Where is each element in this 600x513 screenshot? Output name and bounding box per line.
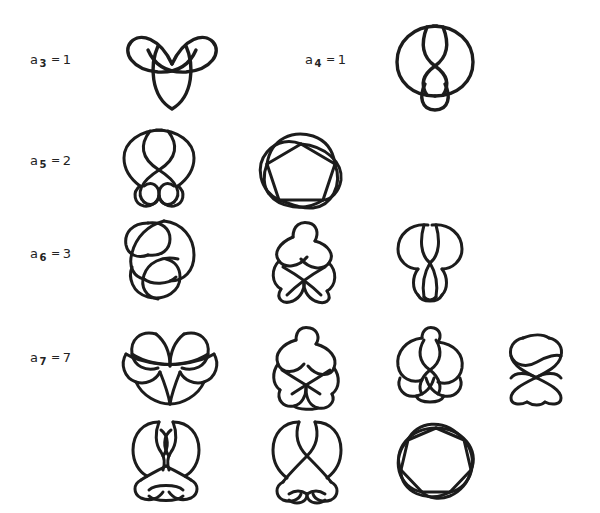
knot-diagram-5-2 [253, 128, 349, 210]
knot-7-4-strands [511, 335, 562, 405]
row-label-a7-value: 7 [63, 350, 72, 365]
row-label-a3: a3=1 [30, 52, 71, 69]
knot-diagram-6-3 [390, 215, 470, 305]
row-label-a4: a4=1 [305, 52, 346, 69]
knot-diagram-7-7 [388, 412, 484, 506]
row-label-a6-equals: = [48, 247, 63, 260]
knot-diagram-7-5 [125, 414, 207, 506]
knot-7-2-strands [274, 328, 339, 410]
knot-row-a5: a5=2 [0, 120, 600, 215]
knot-6-2-strands [273, 223, 335, 303]
knot-5-1-strands [124, 130, 194, 206]
knot-diagram-5-1 [118, 124, 200, 212]
knot-7-5-strands [133, 422, 199, 501]
row-label-a3-value: 1 [63, 52, 72, 67]
row-label-a3-equals: = [48, 53, 63, 66]
knot-7-7-strands [398, 424, 473, 498]
knot-row-a3-a4: a3=1 a4=1 [0, 0, 600, 125]
row-label-a5-value: 2 [63, 153, 72, 168]
row-label-a4-equals: = [323, 53, 338, 66]
knot-diagram-4-1 [393, 18, 477, 114]
knot-5-2-strands [260, 134, 341, 208]
row-label-a4-subscript: 4 [313, 58, 322, 69]
knot-diagram-7-3 [390, 324, 470, 412]
knot-4-1-strands [397, 26, 473, 110]
row-label-a6-value: 3 [63, 246, 72, 261]
knot-row-a6: a6=3 [0, 213, 600, 305]
row-label-a5-subscript: 5 [38, 159, 47, 170]
knot-diagram-3-1 [120, 12, 224, 118]
row-label-a4-value: 1 [338, 52, 347, 67]
knot-diagram-7-1 [118, 324, 222, 408]
row-label-a3-subscript: 3 [38, 58, 47, 69]
knot-7-1-strands [123, 333, 217, 404]
row-label-a7-subscript: 7 [38, 356, 47, 367]
row-label-a5-equals: = [48, 154, 63, 167]
row-label-a7-equals: = [48, 351, 63, 364]
knot-diagram-7-2 [268, 324, 344, 412]
knot-diagram-7-4 [505, 332, 567, 408]
knot-3-1-strands [128, 37, 216, 109]
knot-diagram-7-6 [265, 414, 349, 506]
knot-row-a7-continued [0, 412, 600, 508]
knot-diagram-6-2 [263, 217, 345, 305]
row-label-a7: a7=7 [30, 350, 71, 367]
knot-7-3-strands [398, 327, 463, 402]
knot-table-figure: a3=1 a4=1 [0, 0, 600, 513]
row-label-a6-subscript: 6 [38, 252, 47, 263]
knot-row-a7: a7=7 [0, 322, 600, 414]
knot-6-3-strands [398, 225, 462, 301]
knot-7-6-strands [273, 422, 341, 503]
knot-6-1-strands [126, 221, 194, 299]
row-label-a5: a5=2 [30, 153, 71, 170]
row-label-a6: a6=3 [30, 246, 71, 263]
knot-diagram-6-1 [118, 215, 204, 303]
